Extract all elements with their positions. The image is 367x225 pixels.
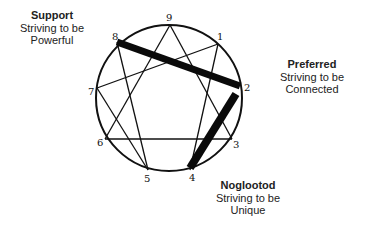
preferred-title: Preferred xyxy=(262,58,362,71)
support-title: Support xyxy=(2,9,102,22)
support-line1: Striving to be xyxy=(2,22,102,35)
point-label-5: 5 xyxy=(144,173,150,184)
point-label-3: 3 xyxy=(233,139,239,150)
support-annotation: Support Striving to be Powerful xyxy=(2,9,102,47)
noglootod-line2: Unique xyxy=(198,204,298,217)
point-label-1: 1 xyxy=(217,31,223,42)
point-label-6: 6 xyxy=(97,137,103,148)
support-line2: Powerful xyxy=(2,34,102,47)
preferred-line1: Striving to be xyxy=(262,71,362,84)
point-label-2: 2 xyxy=(244,82,250,93)
point-label-7: 7 xyxy=(88,86,94,97)
point-label-8: 8 xyxy=(112,31,118,42)
point-labels: 9 1 2 3 4 5 6 7 8 xyxy=(88,12,250,184)
preferred-annotation: Preferred Striving to be Connected xyxy=(262,58,362,96)
point-label-4: 4 xyxy=(189,172,195,183)
noglootod-annotation: Noglootod Striving to be Unique xyxy=(198,179,298,217)
point-label-9: 9 xyxy=(166,12,172,23)
noglootod-title: Noglootod xyxy=(198,179,298,192)
preferred-line2: Connected xyxy=(262,83,362,96)
noglootod-line1: Striving to be xyxy=(198,192,298,205)
